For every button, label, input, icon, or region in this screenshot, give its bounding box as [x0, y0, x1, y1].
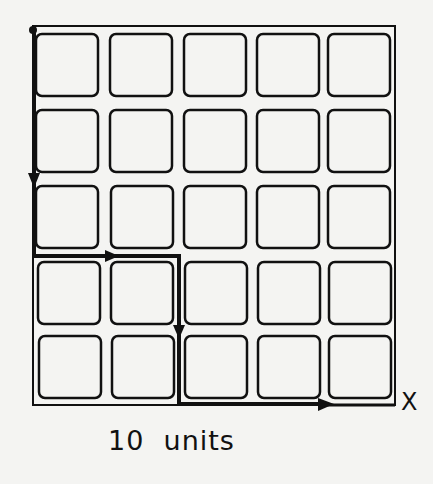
- arrow-down-1: [28, 173, 40, 188]
- arrow-right-1: [105, 250, 119, 262]
- path-route: [34, 30, 325, 404]
- start-dot: [29, 26, 37, 34]
- end-marker-x: X: [401, 388, 417, 416]
- grid-cells: [36, 34, 391, 398]
- outer-frame: [33, 26, 395, 405]
- grid-diagram: [0, 0, 433, 484]
- arrow-down-2: [173, 325, 185, 339]
- caption-units: 10 units: [108, 425, 235, 456]
